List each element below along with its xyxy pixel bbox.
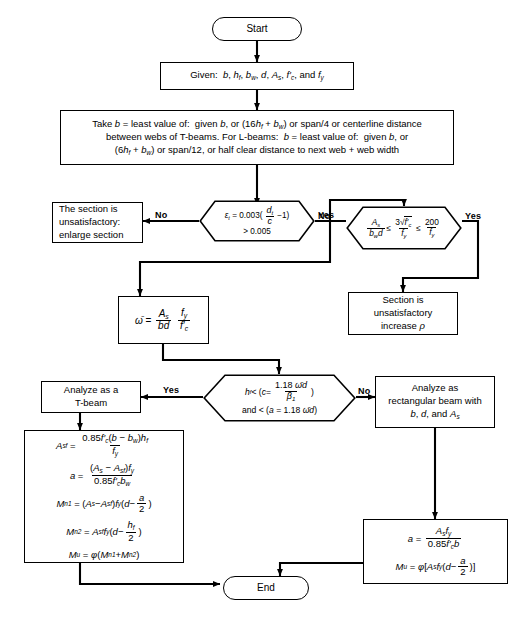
d2-yes-label: Yes bbox=[465, 211, 481, 221]
analyze-t-beam-box: Analyze as a T-beam bbox=[41, 381, 141, 413]
unsatisfactory-enlarge-box: The section is unsatisfactory: enlarge s… bbox=[52, 202, 143, 243]
d3-no-label: No bbox=[358, 386, 370, 396]
take-b-line-1: Take b = least value of: given b, or (16… bbox=[92, 118, 422, 132]
take-b-line-3: (6hf + bw) or span/12, or half clear dis… bbox=[115, 144, 399, 158]
t-beam-formula-box: Asf = 0.85f′c(b − bw)hffy a = (As − Asf)… bbox=[24, 430, 184, 563]
decision-steel-ratio: Asbwd ≤ 3√f′cfy ≤ 200fy bbox=[346, 206, 462, 250]
flowchart-canvas: Start Given: b, hf, bw, d, As, f′c, and … bbox=[0, 0, 515, 620]
t-beam-line-1: Analyze as a bbox=[64, 384, 118, 397]
decision-strain: εt = 0.003(dtc−1) > 0.005 bbox=[199, 200, 315, 242]
decision-strain-line-1: εt = 0.003(dtc−1) bbox=[225, 206, 289, 227]
t-formula-a: a = (As − Asf)fy0.85f′cbw bbox=[70, 463, 138, 487]
rect-formula-mu: Mu = φ[Asfy(d − a2)] bbox=[396, 556, 476, 577]
rect-beam-line-3: b, d, and As bbox=[410, 408, 459, 422]
t-formula-mn2: Mn2 = Asffy(d − hf2) bbox=[66, 520, 141, 543]
unsat-enlarge-line-3: enlarge section bbox=[59, 229, 123, 242]
end-terminator: End bbox=[223, 576, 309, 600]
start-terminator: Start bbox=[212, 17, 302, 41]
unsat-rho-line-3: increase ρ bbox=[381, 320, 425, 333]
unsat-enlarge-line-2: unsatisfactory: bbox=[59, 216, 120, 229]
given-box: Given: b, hf, bw, d, As, f′c, and fy bbox=[160, 62, 354, 90]
omega-bar-box: ω̄ = Asbd fyf′c bbox=[118, 296, 209, 344]
decision-flange-line-1: hf < (c = 1.18 ω̄dβ1) bbox=[245, 381, 314, 402]
end-label: End bbox=[257, 581, 275, 596]
analyze-rect-beam-box: Analyze as rectangular beam with b, d, a… bbox=[375, 376, 495, 428]
unsat-rho-line-2: unsatisfactory bbox=[374, 307, 433, 320]
omega-bar-expr: ω̄ = Asbd fyf′c bbox=[135, 308, 192, 331]
unsat-rho-line-1: Section is bbox=[382, 294, 423, 307]
t-formula-asf: Asf = 0.85f′c(b − bw)hffy bbox=[56, 433, 152, 457]
take-b-line-2: between webs of T-beams. For L-beams: b … bbox=[106, 131, 408, 144]
take-b-box: Take b = least value of: given b, or (16… bbox=[60, 110, 454, 165]
d3-yes-label: Yes bbox=[163, 385, 179, 395]
unsatisfactory-increase-rho-box: Section is unsatisfactory increase ρ bbox=[348, 292, 458, 335]
unsat-enlarge-line-1: The section is bbox=[59, 203, 118, 216]
d2-no-label: No bbox=[318, 211, 330, 221]
rect-beam-line-1: Analyze as bbox=[412, 382, 458, 395]
d1-no-label: No bbox=[155, 210, 167, 220]
t-beam-line-2: T-beam bbox=[75, 397, 107, 410]
decision-steel-ratio-expr: Asbwd ≤ 3√f′cfy ≤ 200fy bbox=[365, 218, 443, 238]
t-formula-mu: Mu = φ(Mn1 + Mn2) bbox=[69, 549, 140, 560]
start-label: Start bbox=[246, 22, 267, 37]
t-formula-mn1: Mn1 = (As − Asf)fy(d − a2) bbox=[56, 493, 151, 514]
decision-flange-line-2: and < (a = 1.18 ω̄d) bbox=[242, 405, 317, 415]
rect-formula-a: a = Asfy0.85f′cb bbox=[408, 526, 464, 550]
rect-beam-formula-box: a = Asfy0.85f′cb Mu = φ[Asfy(d − a2)] bbox=[363, 519, 508, 584]
decision-flange-depth: hf < (c = 1.18 ω̄dβ1) and < (a = 1.18 ω̄… bbox=[203, 374, 356, 422]
decision-strain-line-2: > 0.005 bbox=[243, 227, 271, 236]
rect-beam-line-2: rectangular beam with bbox=[388, 395, 481, 408]
given-text: Given: b, hf, bw, d, As, f′c, and fy bbox=[190, 69, 324, 83]
